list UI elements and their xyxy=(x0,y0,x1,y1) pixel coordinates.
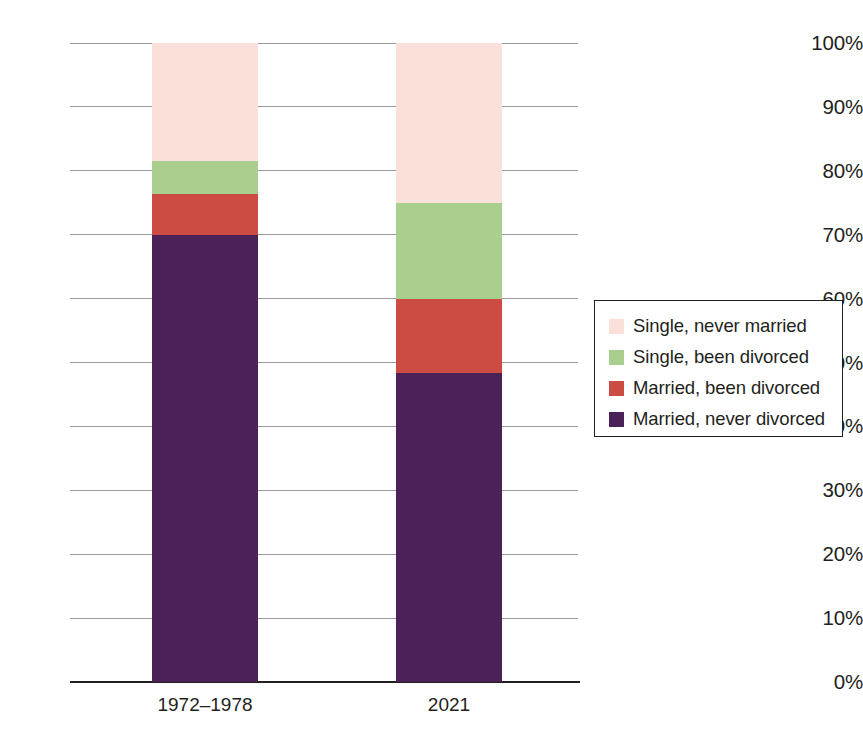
y-axis-tick-label: 20% xyxy=(801,542,863,566)
stacked-bar xyxy=(396,43,502,682)
bar-segment xyxy=(152,194,258,234)
legend-swatch-icon xyxy=(609,350,624,365)
y-axis-tick-label: 100% xyxy=(801,31,863,55)
legend-item-label: Single, never married xyxy=(633,315,807,337)
legend-item-label: Married, never divorced xyxy=(633,408,825,430)
legend-swatch-icon xyxy=(609,412,624,427)
chart-container: 100%90%80%70%60%50%40%30%20%10%0%1972–19… xyxy=(0,0,863,738)
legend-item: Single, been divorced xyxy=(609,342,842,372)
stacked-bar xyxy=(152,43,258,682)
y-axis-tick-label: 70% xyxy=(801,223,863,247)
bar-segment xyxy=(396,373,502,682)
x-axis-tick-label: 1972–1978 xyxy=(157,694,252,716)
y-axis-tick-label: 10% xyxy=(801,606,863,630)
bar-segment xyxy=(396,43,502,203)
chart-legend: Single, never marriedSingle, been divorc… xyxy=(594,300,843,437)
y-axis-tick-label: 30% xyxy=(801,478,863,502)
bar-segment xyxy=(396,299,502,374)
legend-item-label: Single, been divorced xyxy=(633,346,809,368)
bar-segment xyxy=(152,235,258,682)
legend-swatch-icon xyxy=(609,319,624,334)
bar-segment xyxy=(152,43,258,161)
legend-item-label: Married, been divorced xyxy=(633,377,820,399)
bar-segment xyxy=(152,161,258,194)
y-axis-tick-label: 90% xyxy=(801,95,863,119)
legend-item: Single, never married xyxy=(609,311,842,341)
legend-swatch-icon xyxy=(609,381,624,396)
legend-item: Married, been divorced xyxy=(609,373,842,403)
x-axis-baseline xyxy=(70,681,580,683)
legend-item: Married, never divorced xyxy=(609,404,842,434)
y-axis-tick-label: 80% xyxy=(801,159,863,183)
bar-segment xyxy=(396,203,502,299)
y-axis-tick-label: 0% xyxy=(801,670,863,694)
x-axis-tick-label: 2021 xyxy=(428,694,470,716)
